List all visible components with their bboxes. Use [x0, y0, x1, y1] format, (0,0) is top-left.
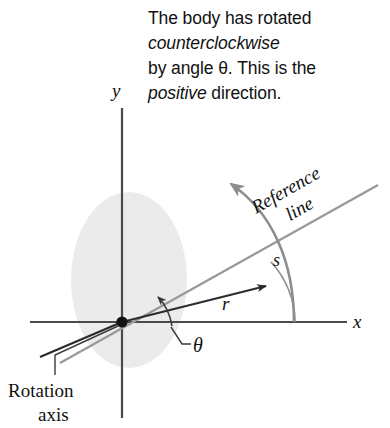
caption-line-1-text: The body has rotated	[148, 8, 311, 28]
caption-line-4: positive direction.	[148, 81, 388, 106]
origin-rotation-axis-dot	[116, 316, 127, 327]
radius-label-r: r	[222, 293, 230, 314]
caption-line-2-italic: counterclockwise	[148, 33, 280, 53]
caption-line-1: The body has rotated	[148, 6, 388, 31]
caption-line-2: counterclockwise	[148, 31, 388, 56]
rotation-axis-label-line1: Rotation	[8, 380, 74, 401]
rotation-diagram-figure: The body has rotated counterclockwise by…	[0, 0, 390, 428]
rotating-body-disk	[71, 192, 187, 368]
rotation-axis-label-line2: axis	[38, 404, 69, 425]
x-axis-label: x	[352, 311, 362, 332]
reference-line-label-group: Reference line	[247, 162, 335, 238]
arc-length-label-s: s	[273, 250, 280, 270]
y-axis-label: y	[110, 80, 121, 101]
caption-line-3: by angle θ. This is the	[148, 56, 388, 81]
caption-line-3-text: by angle θ. This is the	[148, 58, 316, 78]
caption-block: The body has rotated counterclockwise by…	[148, 6, 388, 106]
caption-line-4-text: direction.	[207, 83, 282, 103]
theta-label: θ	[193, 334, 203, 356]
caption-line-4-italic: positive	[148, 83, 207, 103]
